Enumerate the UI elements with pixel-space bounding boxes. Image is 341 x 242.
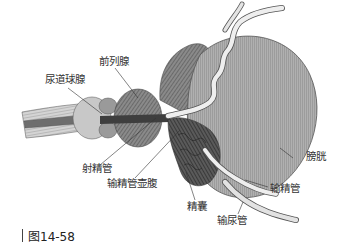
label-bulbourethral-gland: 尿道球腺 (45, 74, 85, 85)
figure-caption: 图14-58 (28, 231, 75, 242)
label-ampulla-of-vas-deferens: 输精管壶腹 (107, 178, 157, 189)
label-vas-deferens: 输精管 (270, 183, 300, 194)
label-ejaculatory-duct: 射精管 (82, 163, 112, 174)
label-prostate: 前列腺 (99, 56, 129, 67)
label-seminal-vesicle: 精囊 (187, 201, 207, 212)
prostate (100, 89, 170, 147)
anatomy-illustration (0, 0, 341, 242)
caption-divider (22, 229, 23, 242)
label-ureter: 输尿管 (217, 215, 247, 226)
label-bladder: 膀胱 (306, 151, 326, 162)
